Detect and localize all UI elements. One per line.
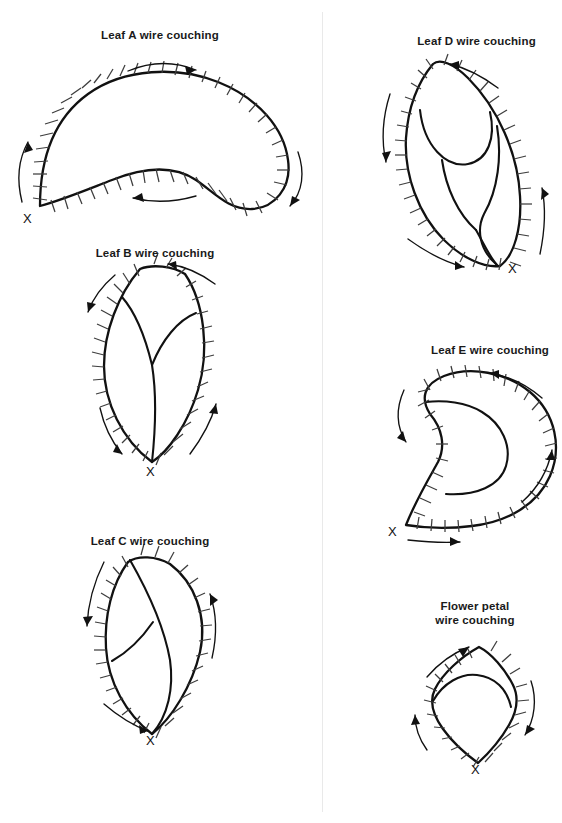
leaf-a-outline [40,72,289,209]
leaf-a-arrowhead-right [290,196,300,206]
leaf-a-drawing [0,20,320,250]
leaf-b-arrow-lower-left [100,408,122,454]
diagram-leaf-c: Leaf C wire couching [60,530,270,760]
diagram-leaf-d: Leaf D wire couching [380,30,555,290]
leaf-c-drawing [60,530,270,760]
leaf-e-drawing [390,340,560,560]
leaf-e-couching-ticks [414,365,557,532]
leaf-e-arrowhead-right-up [546,450,555,460]
leaf-c-arrowhead-left-down [83,616,93,626]
diagram-leaf-e: Leaf E wire couching [390,340,560,560]
flower-petal-arrowhead-right-down [525,725,535,735]
leaf-b-vein-right [152,313,196,365]
flower-petal-couching-ticks [424,641,529,767]
flower-petal-inner-arc [433,675,511,707]
diagram-title-leaf-b: Leaf B wire couching [55,246,255,260]
diagram-leaf-b: Leaf B wire couching [60,240,270,490]
diagram-title-flower-petal: Flower petal wire couching [405,599,545,627]
leaf-c-branch-vein [112,622,153,661]
column-divider [322,12,323,812]
leaf-b-central-vein [152,365,155,462]
diagram-flower-petal: Flower petal wire couching [405,595,551,795]
leaf-b-start-mark: X [146,465,155,478]
leaf-e-direction-arrows [397,370,555,546]
diagram-title-leaf-c: Leaf C wire couching [50,534,250,548]
leaf-d-middle-vein [442,160,476,230]
leaf-c-s-curve-vein [130,560,171,734]
leaf-e-outline [406,371,556,528]
leaf-c-couching-ticks [94,544,212,738]
leaf-a-couching-ticks [33,61,290,216]
leaf-b-vein-left [122,297,152,365]
leaf-d-arrowhead-right-up [541,188,549,200]
leaf-a-start-mark: X [23,212,32,225]
leaf-a-direction-arrows [19,63,302,206]
leaf-d-couching-ticks [395,54,532,270]
leaf-a-outline-group [40,72,289,209]
leaf-a-arrowhead-bottom [133,193,144,202]
leaf-e-outline-group [406,371,556,528]
leaf-c-outline-group [106,557,203,734]
leaf-b-arrowhead-upper-left [87,302,96,312]
leaf-d-arrowhead-left-down [382,151,391,162]
leaf-d-upper-lobe-arc [420,110,492,164]
leaf-c-veins [112,560,171,734]
leaf-b-arrowhead-lower-left [113,444,122,454]
leaf-c-start-mark: X [146,734,155,747]
diagram-title-leaf-a: Leaf A wire couching [35,28,285,42]
flower-petal-veins [433,675,511,707]
flower-petal-arrowhead-lower-left-up [411,715,420,725]
leaf-c-arrowhead-right-up [210,594,218,606]
diagram-leaf-a: Leaf A wire couching [0,20,320,250]
leaf-b-arrowhead-right-up [209,404,218,414]
leaf-c-direction-arrows [83,562,218,734]
diagram-title-leaf-d: Leaf D wire couching [394,34,559,48]
leaf-d-lower-lobe-inner [476,230,498,266]
leaf-d-arrowhead-bottom-right [455,261,464,270]
leaf-d-veins [420,110,499,266]
leaf-b-direction-arrows [87,261,218,454]
leaf-b-couching-ticks [92,253,214,465]
leaf-e-veins [426,401,508,494]
leaf-e-start-mark: X [388,525,397,538]
leaf-e-inner-c-vein [426,401,508,494]
leaf-d-start-mark: X [508,262,517,275]
leaf-b-veins [122,297,196,462]
leaf-b-drawing [60,240,270,490]
leaf-d-drawing [380,30,555,290]
flower-petal-start-mark: X [471,763,480,776]
diagram-title-leaf-e: Leaf E wire couching [410,343,562,357]
leaf-c-outline [106,557,203,734]
leaf-e-arrowhead-bottom-right [450,537,460,546]
